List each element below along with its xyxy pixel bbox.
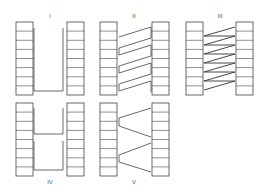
left-column <box>16 103 33 176</box>
panel-label-iii: III <box>217 13 222 19</box>
panel-label-iv: IV <box>47 179 53 185</box>
diagram-canvas: I II III IV V <box>0 0 266 192</box>
zigzag-strand <box>119 27 151 92</box>
right-column <box>152 103 169 176</box>
panel-label-ii: II <box>132 13 136 19</box>
right-column <box>67 103 84 176</box>
left-column <box>186 22 203 95</box>
u-loop-strand <box>34 28 63 91</box>
panel-ii: II <box>100 13 169 95</box>
panel-v: V <box>100 103 169 185</box>
dense-zigzag-strand <box>204 27 235 90</box>
upper-loop-strand <box>34 108 63 134</box>
panel-label-i: I <box>49 13 51 19</box>
panel-i: I <box>16 13 84 95</box>
left-column <box>100 103 117 176</box>
panel-iv: IV <box>16 103 84 185</box>
lower-wedge-strand <box>119 143 151 172</box>
lower-loop-strand <box>34 141 63 170</box>
left-column <box>16 22 33 95</box>
panel-iii: III <box>186 13 253 95</box>
panel-label-v: V <box>132 179 136 185</box>
left-column <box>100 22 117 95</box>
upper-wedge-strand <box>119 108 151 137</box>
right-column <box>67 22 84 95</box>
right-column <box>236 22 253 95</box>
right-column <box>152 22 169 95</box>
